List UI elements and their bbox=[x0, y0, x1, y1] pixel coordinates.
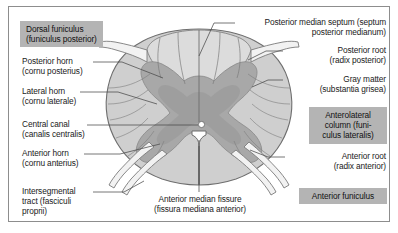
label-gray-matter: Gray matter (substantia grisea) bbox=[266, 74, 386, 94]
label-anterior-horn: Anterior horn (cornu anterius) bbox=[22, 148, 79, 168]
label-anterior-funiculus: Anterior funiculus bbox=[299, 188, 387, 204]
central-canal bbox=[198, 121, 204, 127]
label-posterior-root: Posterior root (radix posterior) bbox=[266, 45, 386, 65]
label-dorsal-funiculus: Dorsal funiculus (funiculus posterior) bbox=[20, 21, 103, 47]
label-anterior-median-fissure: Anterior median fissure (fissura mediana… bbox=[126, 194, 274, 214]
label-lateral-horn: Lateral horn (cornu laterale) bbox=[22, 86, 76, 106]
spinal-cord-figure: Dorsal funiculus (funiculus posterior) P… bbox=[0, 0, 398, 233]
label-anterolateral-column: Anterolateral column (funi- culus latera… bbox=[309, 107, 387, 144]
label-anterior-root: Anterior root (radix anterior) bbox=[266, 151, 386, 171]
label-central-canal: Central canal (canalis centralis) bbox=[22, 119, 85, 139]
leader-intersegmental-tract bbox=[93, 181, 144, 192]
label-posterior-median-septum: Posterior median septum (septum posterio… bbox=[226, 17, 386, 37]
label-posterior-horn: Posterior horn (cornu posterius) bbox=[22, 56, 83, 76]
label-intersegmental-tract: Intersegmental tract (fasciculi proprii) bbox=[22, 186, 75, 217]
